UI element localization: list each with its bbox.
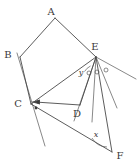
vertex-label-E: E bbox=[91, 41, 98, 52]
vertex-label-B: B bbox=[4, 49, 11, 60]
edge-A-B bbox=[20, 18, 55, 57]
edge-A-E bbox=[55, 18, 96, 57]
extension-rays bbox=[17, 53, 136, 146]
ray-e-4 bbox=[96, 57, 136, 79]
angle-dot-mark-2-icon bbox=[35, 107, 38, 110]
geometry-figure: A B C D E F y x bbox=[0, 0, 140, 164]
vertex-label-C: C bbox=[14, 98, 22, 109]
edge-C-D bbox=[35, 102, 80, 105]
angle-label-x: x bbox=[94, 130, 99, 139]
edge-C-E bbox=[31, 57, 96, 104]
edge-B-C bbox=[20, 57, 31, 104]
vertex-label-A: A bbox=[46, 6, 55, 17]
edge-E-F bbox=[96, 57, 112, 152]
angle-circle-mark-3-icon bbox=[104, 68, 108, 72]
vertex-label-F: F bbox=[117, 150, 124, 161]
angle-arc-x bbox=[92, 138, 107, 147]
angle-marks-at-E bbox=[85, 66, 109, 75]
angle-arc-y bbox=[85, 66, 91, 72]
edge-C-F bbox=[31, 104, 112, 152]
angle-dot-mark-1-icon bbox=[37, 101, 40, 104]
vertex-label-D: D bbox=[73, 108, 81, 119]
angle-marks-at-F bbox=[92, 138, 107, 147]
angle-label-y: y bbox=[78, 68, 84, 77]
ray-e-3 bbox=[96, 57, 117, 108]
vertex-labels: A B C D E F bbox=[4, 6, 123, 161]
figure-canvas: A B C D E F y x bbox=[0, 0, 140, 164]
